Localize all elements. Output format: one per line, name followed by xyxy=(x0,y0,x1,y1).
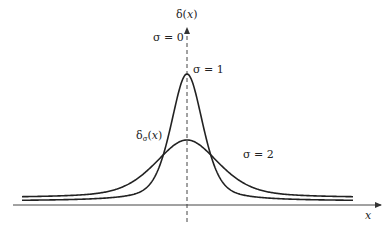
x-axis-label: x xyxy=(365,210,371,221)
sigma-2-label: σ = 2 xyxy=(243,149,274,160)
y-axis-label: δ(x) xyxy=(176,9,197,20)
sigma-0-label: σ = 0 xyxy=(153,32,184,43)
diagram-canvas xyxy=(0,0,391,231)
sigma-1-label: σ = 1 xyxy=(193,64,224,75)
curve-family-label: δσ(x) xyxy=(136,130,162,143)
